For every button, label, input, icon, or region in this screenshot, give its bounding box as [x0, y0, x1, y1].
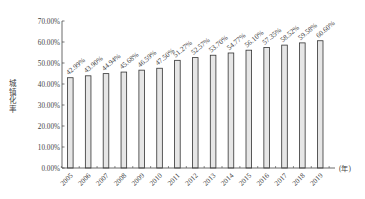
x-tick-label: 2011	[166, 171, 182, 187]
bar-rect	[139, 70, 145, 168]
x-tick-label: 2012	[184, 171, 200, 187]
urbanization-bar-chart: 城镇化率 0.00%10.00%20.00%30.00%40.00%50.00%…	[0, 0, 365, 199]
y-tick-label: 30.00%	[38, 102, 60, 110]
bar-rect	[300, 43, 306, 168]
x-tick-label: 2006	[77, 171, 93, 187]
bar-2009: 46.59%2009	[130, 49, 158, 188]
bar-2019: 60.60%2019	[309, 19, 337, 187]
bar-rect	[121, 72, 127, 168]
bar-rect	[85, 76, 91, 168]
bar-rect	[175, 60, 181, 168]
bar-rect	[246, 50, 252, 168]
y-tick-label: 10.00%	[38, 144, 60, 152]
x-tick-label: 2005	[59, 171, 75, 187]
bar-rect	[228, 53, 234, 168]
bar-2010: 47.50%2010	[148, 47, 176, 188]
y-tick-label: 70.00%	[38, 18, 60, 26]
bar-rect	[103, 74, 109, 168]
x-tick-label: 2019	[309, 171, 325, 187]
bar-rect	[317, 41, 323, 168]
bar-value-label: 46.59%	[136, 49, 158, 69]
bar-rect	[210, 55, 216, 168]
bar-rect	[68, 78, 74, 168]
y-axis-title-char: 镇	[9, 87, 17, 97]
x-axis-title: (年)	[339, 164, 351, 173]
x-tick-label: 2018	[291, 171, 307, 187]
y-axis-title-char: 率	[9, 104, 17, 114]
x-tick-label: 2016	[255, 171, 271, 187]
y-axis-title-char: 化	[9, 95, 17, 105]
bar-2013: 53.70%2013	[202, 34, 230, 188]
bar-2016: 57.35%2016	[255, 26, 283, 187]
bar-2008: 45.68%2008	[112, 51, 140, 188]
y-tick-label: 40.00%	[38, 81, 60, 89]
bar-value-label: 44.94%	[100, 52, 122, 72]
bar-2014: 54.77%2014	[220, 32, 248, 188]
x-tick-label: 2010	[148, 171, 164, 187]
x-tick-label: 2009	[130, 171, 146, 187]
x-tick-label: 2013	[202, 171, 218, 187]
bar-2011: 51.27%2011	[166, 39, 194, 187]
y-tick-label: 0.00%	[41, 165, 60, 173]
x-tick-label: 2007	[95, 171, 111, 187]
x-tick-label: 2008	[112, 171, 128, 187]
bars: 42.99%200543.90%200644.94%200745.68%2008…	[59, 19, 337, 187]
bar-value-label: 42.99%	[65, 56, 87, 76]
x-tick-label: 2015	[237, 171, 253, 187]
x-tick-label: 2014	[220, 171, 236, 187]
bar-value-label: 60.60%	[315, 19, 337, 39]
bar-rect	[264, 48, 270, 168]
bar-2012: 52.57%2012	[184, 36, 212, 187]
y-tick-label: 60.00%	[38, 39, 60, 47]
bar-rect	[192, 58, 198, 168]
x-tick-label: 2017	[273, 171, 289, 187]
bar-rect	[282, 45, 288, 168]
bar-2015: 56.10%2015	[237, 29, 265, 188]
y-tick-label: 50.00%	[38, 60, 60, 68]
bar-2007: 44.94%2007	[95, 52, 123, 187]
bar-2017: 58.52%2017	[273, 24, 301, 188]
y-axis-title: 城镇化率	[9, 79, 17, 114]
bar-value-label: 45.68%	[118, 51, 140, 71]
bar-2018: 59.58%2018	[291, 22, 319, 188]
bar-rect	[157, 68, 163, 168]
y-axis: 0.00%10.00%20.00%30.00%40.00%50.00%60.00…	[38, 18, 65, 173]
bar-value-label: 47.50%	[154, 47, 176, 67]
y-tick-label: 20.00%	[38, 123, 60, 131]
